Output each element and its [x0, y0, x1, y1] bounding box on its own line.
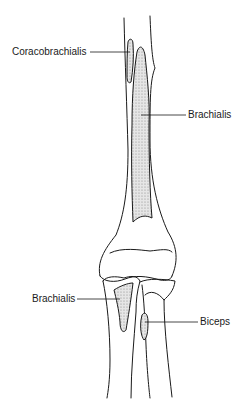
brachialis-upper-attachment: [132, 47, 152, 222]
label-brachialis-upper: Brachialis: [188, 109, 231, 121]
label-brachialis-lower: Brachialis: [32, 293, 75, 305]
label-coracobrachialis: Coracobrachialis: [12, 46, 86, 58]
brachialis-lower-attachment: [114, 283, 133, 332]
arm-bones-diagram: [0, 0, 248, 413]
humerus-outline: [99, 18, 128, 276]
coracobrachialis-attachment: [127, 39, 133, 83]
biceps-attachment: [141, 313, 148, 340]
label-biceps: Biceps: [200, 316, 230, 328]
